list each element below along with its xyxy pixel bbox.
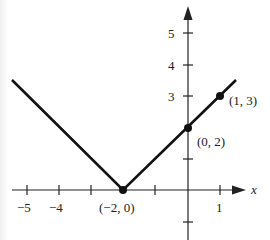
point-vertex-marker — [119, 186, 127, 194]
x-axis — [12, 185, 246, 195]
point-1-3-label: (1, 3) — [229, 94, 257, 107]
x-axis-arrow-icon — [232, 186, 246, 195]
y-axis-arrow-icon — [184, 6, 193, 20]
x-axis-label: x — [251, 183, 257, 196]
y-tick-label-3: 3 — [168, 90, 175, 103]
point-intercept-label: (0, 2) — [197, 135, 225, 148]
plot-area — [0, 0, 270, 240]
point-intercept-marker — [184, 124, 192, 132]
point-vertex-label: (−2, 0) — [99, 201, 135, 214]
y-tick-label-5: 5 — [168, 27, 175, 40]
x-tick-label-1: 1 — [216, 201, 223, 214]
x-tick-label-neg5: −5 — [17, 201, 31, 214]
x-tick-label-neg4: −4 — [49, 201, 63, 214]
point-1-3-marker — [216, 92, 224, 100]
y-tick-label-4: 4 — [168, 59, 175, 72]
